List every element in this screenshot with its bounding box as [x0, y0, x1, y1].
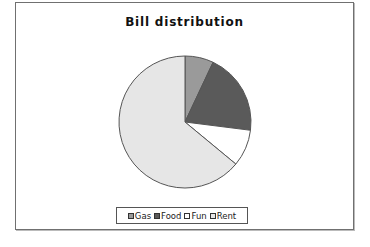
legend-swatch-fun: [184, 213, 190, 219]
legend-label-gas: Gas: [135, 211, 151, 221]
legend-item-fun: Fun: [184, 211, 206, 221]
legend-item-food: Food: [154, 211, 181, 221]
legend-item-rent: Rent: [210, 211, 236, 221]
legend-label-food: Food: [161, 211, 181, 221]
legend-item-gas: Gas: [128, 211, 151, 221]
legend-swatch-food: [154, 213, 160, 219]
pie-slices: [119, 56, 251, 188]
legend-label-fun: Fun: [191, 211, 206, 221]
chart-legend: Gas Food Fun Rent: [116, 207, 248, 224]
legend-swatch-gas: [128, 213, 134, 219]
legend-swatch-rent: [210, 213, 216, 219]
legend-label-rent: Rent: [217, 211, 236, 221]
